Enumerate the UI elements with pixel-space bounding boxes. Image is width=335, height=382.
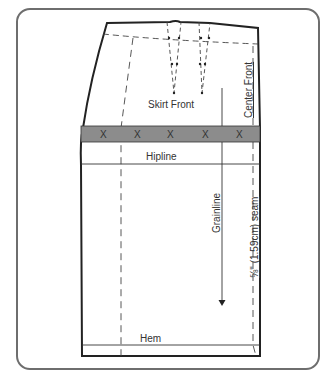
side-seam-line bbox=[121, 38, 133, 356]
hem-label: Hem bbox=[140, 333, 161, 344]
dart-left bbox=[167, 22, 181, 93]
pattern-outline bbox=[81, 21, 260, 356]
waist-seam-line bbox=[103, 34, 258, 44]
skirt-front-pattern: X X X X X Hipline Hem Skirt Front Center… bbox=[0, 0, 335, 382]
dart-dots bbox=[168, 37, 210, 94]
x-mark: X bbox=[134, 129, 141, 140]
x-mark: X bbox=[167, 129, 174, 140]
piece-name-label: Skirt Front bbox=[148, 99, 194, 110]
dart-right bbox=[199, 22, 210, 93]
x-mark: X bbox=[236, 129, 243, 140]
x-mark: X bbox=[100, 129, 107, 140]
seam-allowance-label: ⅝" (1.59cm) seam bbox=[249, 197, 260, 278]
hipline-label: Hipline bbox=[146, 151, 177, 162]
grainline-arrow-icon bbox=[219, 300, 226, 306]
x-mark: X bbox=[202, 129, 209, 140]
center-front-label: Center Front bbox=[243, 62, 254, 118]
grainline-label: Grainline bbox=[211, 193, 222, 233]
